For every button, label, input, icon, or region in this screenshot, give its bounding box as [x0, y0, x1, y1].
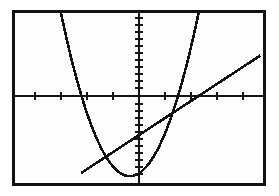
- parabola-curve: [53, 13, 206, 176]
- line-curve: [81, 56, 260, 174]
- calculator-graph-screen: [12, 10, 266, 186]
- graph-plot: [15, 13, 263, 183]
- calculator-screenshot: [0, 0, 279, 196]
